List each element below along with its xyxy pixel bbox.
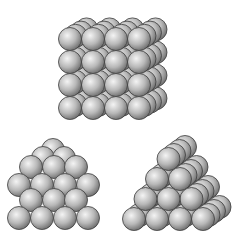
sphere (59, 74, 82, 97)
sphere (169, 208, 192, 231)
sphere (134, 188, 157, 211)
sphere (180, 188, 203, 211)
sphere (54, 207, 77, 230)
sphere (8, 207, 31, 230)
sphere (157, 188, 180, 211)
sphere (82, 74, 105, 97)
sphere (105, 74, 128, 97)
sphere (128, 28, 151, 51)
sphere (146, 168, 169, 191)
sphere (105, 97, 128, 120)
sphere (82, 97, 105, 120)
sphere (105, 51, 128, 74)
sphere (59, 97, 82, 120)
sphere (59, 28, 82, 51)
sphere (128, 97, 151, 120)
sphere-packing-diagram (0, 0, 250, 249)
sphere (192, 208, 215, 231)
sphere (82, 51, 105, 74)
sphere (82, 28, 105, 51)
diagram-canvas (0, 0, 250, 249)
cubic-stack (59, 18, 168, 120)
sphere (146, 208, 169, 231)
sphere (77, 207, 100, 230)
sphere (105, 28, 128, 51)
sphere (31, 207, 54, 230)
sphere (123, 208, 146, 231)
sphere (128, 74, 151, 97)
sphere (128, 51, 151, 74)
sphere (59, 51, 82, 74)
sphere (157, 148, 180, 171)
sphere (169, 168, 192, 191)
